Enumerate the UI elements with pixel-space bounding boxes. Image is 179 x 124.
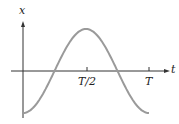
tick-label-full: T: [145, 75, 152, 88]
chart-plot: [0, 0, 179, 124]
x-axis-label: t: [171, 63, 175, 76]
y-axis-label: x: [19, 4, 25, 17]
tick-label-half: T/2: [78, 75, 96, 88]
x-axis-arrow-icon: [164, 69, 170, 73]
y-axis-arrow-icon: [21, 21, 25, 27]
